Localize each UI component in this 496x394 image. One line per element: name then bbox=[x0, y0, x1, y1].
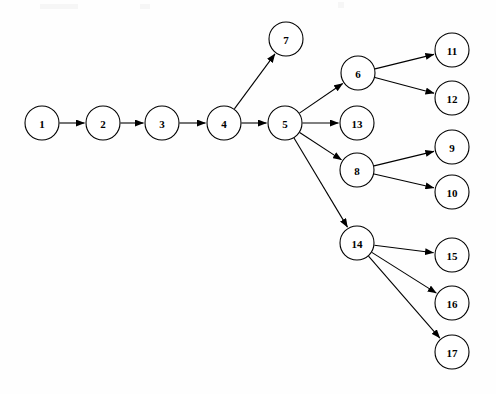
edge-4-to-7 bbox=[234, 54, 275, 109]
edge-14-to-15 bbox=[374, 245, 433, 252]
node-2[interactable]: 2 bbox=[86, 106, 120, 140]
node-16[interactable]: 16 bbox=[435, 286, 469, 320]
node-label-10: 10 bbox=[447, 187, 459, 199]
node-15[interactable]: 15 bbox=[435, 238, 469, 272]
nodes-layer: 1234576138141112910151617 bbox=[25, 22, 469, 369]
node-label-1: 1 bbox=[39, 118, 45, 130]
node-label-13: 13 bbox=[352, 118, 364, 130]
edge-5-to-14 bbox=[294, 138, 347, 227]
edge-6-to-12 bbox=[375, 77, 434, 93]
node-11[interactable]: 11 bbox=[435, 33, 469, 67]
node-3[interactable]: 3 bbox=[145, 106, 179, 140]
edge-8-to-10 bbox=[374, 174, 434, 188]
node-7[interactable]: 7 bbox=[269, 22, 303, 56]
node-label-17: 17 bbox=[447, 347, 459, 359]
node-label-4: 4 bbox=[221, 118, 227, 130]
directed-graph: 1234576138141112910151617 bbox=[0, 0, 496, 394]
node-5[interactable]: 5 bbox=[268, 106, 302, 140]
node-13[interactable]: 13 bbox=[340, 106, 374, 140]
node-9[interactable]: 9 bbox=[435, 130, 469, 164]
node-1[interactable]: 1 bbox=[25, 106, 59, 140]
node-label-15: 15 bbox=[447, 250, 459, 262]
node-17[interactable]: 17 bbox=[435, 335, 469, 369]
edges-layer bbox=[60, 54, 440, 338]
edge-14-to-16 bbox=[372, 252, 437, 293]
node-label-14: 14 bbox=[352, 238, 364, 250]
node-label-6: 6 bbox=[355, 68, 361, 80]
node-12[interactable]: 12 bbox=[435, 81, 469, 115]
node-label-2: 2 bbox=[100, 118, 106, 130]
node-8[interactable]: 8 bbox=[340, 153, 374, 187]
node-10[interactable]: 10 bbox=[435, 175, 469, 209]
node-6[interactable]: 6 bbox=[341, 56, 375, 90]
edge-14-to-17 bbox=[368, 256, 439, 338]
node-label-5: 5 bbox=[282, 118, 288, 130]
node-label-12: 12 bbox=[447, 93, 459, 105]
node-label-3: 3 bbox=[159, 118, 165, 130]
edge-8-to-9 bbox=[374, 151, 434, 166]
edge-6-to-11 bbox=[375, 54, 434, 68]
diagram-canvas: 1234576138141112910151617 bbox=[0, 0, 496, 394]
edge-5-to-6 bbox=[299, 83, 342, 113]
node-label-9: 9 bbox=[449, 142, 455, 154]
node-label-11: 11 bbox=[447, 45, 457, 57]
node-label-16: 16 bbox=[447, 298, 459, 310]
node-4[interactable]: 4 bbox=[207, 106, 241, 140]
node-label-8: 8 bbox=[354, 165, 360, 177]
node-label-7: 7 bbox=[283, 34, 289, 46]
edge-5-to-8 bbox=[300, 133, 342, 160]
node-14[interactable]: 14 bbox=[340, 226, 374, 260]
